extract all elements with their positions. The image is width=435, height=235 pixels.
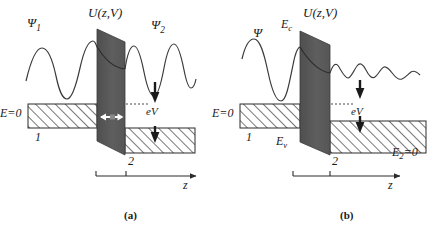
panel-b-bias-arrow-upper: [356, 80, 365, 99]
panel-a-caption: (a): [124, 210, 137, 221]
panel-a-barrier: [97, 29, 125, 155]
panel-b-energy-zero-label: E=0: [212, 107, 233, 119]
panel-b-axis-label: z: [388, 179, 393, 191]
panel-a-wave-right-label: Ψ2: [151, 18, 165, 35]
panel-b-electrode-left: [240, 104, 300, 128]
panel-a-bias-label: eV: [146, 106, 158, 117]
panel-a-axis-label: z: [183, 179, 188, 191]
panel-b-barrier: [300, 31, 330, 155]
panel-b-conduction-band-label: Ec: [281, 18, 292, 33]
panel-a-potential-label: U(z,V): [88, 6, 122, 19]
panel-b-bias-label: eV: [351, 106, 363, 117]
panel-a-electrode-right-number: 2: [128, 155, 134, 167]
panel-a-wave-incident: [26, 41, 97, 99]
panel-b-potential-label: U(z,V): [303, 6, 337, 19]
panel-b-wave-incident: [242, 39, 300, 101]
panel-b-wave-transmitted: [330, 64, 420, 79]
panel-a-electrode-left-number: 1: [35, 131, 41, 143]
panel-b-valence-band-label: Ev: [276, 135, 287, 150]
panel-b-wave-label: Ψ: [253, 26, 262, 39]
panel-a-wave-left-label: Ψ1: [27, 16, 41, 33]
panel-b-caption: (b): [340, 210, 353, 221]
panel-a-electrode-right: [125, 128, 195, 153]
panel-b-electrode-left-number: 1: [246, 131, 252, 143]
tunneling-barrier-figure: Ψ1 U(z,V) Ψ2 E=0 eV 1 2 z (a) Ψ Ec U(z,V…: [0, 0, 435, 235]
panel-a-wave-transmitted: [125, 44, 196, 96]
panel-a-bias-arrow-upper: [151, 82, 160, 103]
panel-a-graphics: [26, 29, 196, 176]
panel-a-energy-zero-label: E=0: [0, 107, 21, 119]
panel-b-electrode-right-number: 2: [332, 155, 338, 167]
panel-b-energy-right-label: E2=0: [392, 146, 418, 161]
panel-a-electrode-left: [28, 104, 97, 128]
